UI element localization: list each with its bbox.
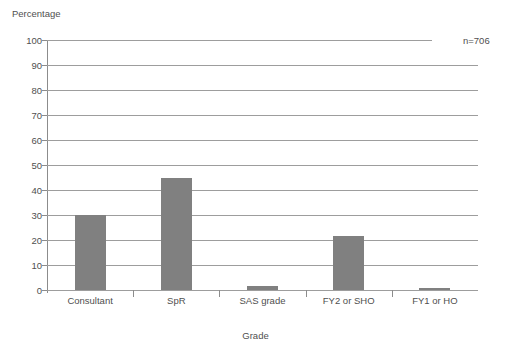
category-label: FY1 or HO: [412, 295, 457, 306]
gridline: [47, 290, 478, 291]
bar: [161, 178, 192, 291]
y-tick-label: 10: [31, 260, 42, 271]
y-tick-label: 80: [31, 85, 42, 96]
x-axis-title: Grade: [0, 330, 511, 341]
category-tick: [219, 290, 220, 297]
y-tick-label: 30: [31, 210, 42, 221]
bar: [419, 288, 450, 291]
bar: [75, 215, 106, 290]
bar: [333, 236, 364, 290]
category-tick: [306, 290, 307, 297]
category-tick: [133, 290, 134, 297]
bar-chart: Percentage n=706 0102030405060708090100 …: [0, 0, 511, 364]
y-tick-label: 70: [31, 110, 42, 121]
y-tick-label: 40: [31, 185, 42, 196]
cut-off-caption: [120, 358, 300, 364]
y-tick-mark: [42, 290, 47, 291]
bar-series: [47, 40, 478, 290]
category-tick: [392, 290, 393, 297]
category-label: SpR: [167, 295, 185, 306]
bar: [247, 286, 278, 290]
category-label: FY2 or SHO: [323, 295, 375, 306]
y-axis-title: Percentage: [12, 8, 61, 19]
y-tick-label: 60: [31, 135, 42, 146]
y-tick-label: 20: [31, 235, 42, 246]
y-tick-label: 90: [31, 60, 42, 71]
category-label: SAS grade: [240, 295, 286, 306]
y-tick-label: 100: [26, 35, 42, 46]
plot-area: 0102030405060708090100 ConsultantSpRSAS …: [47, 40, 478, 290]
y-tick-label: 50: [31, 160, 42, 171]
category-label: Consultant: [67, 295, 112, 306]
